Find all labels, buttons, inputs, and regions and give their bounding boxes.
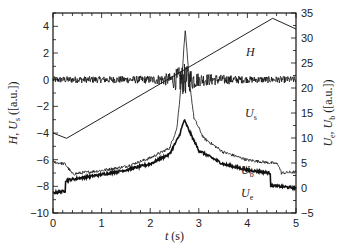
svg-text:0: 0 [301, 182, 307, 194]
svg-text:25: 25 [301, 57, 313, 69]
svg-text:3: 3 [196, 217, 202, 229]
svg-text:−10: −10 [30, 207, 49, 219]
label-Ub: Ub [241, 163, 254, 179]
svg-text:2: 2 [43, 47, 49, 59]
svg-text:4: 4 [43, 20, 49, 32]
svg-text:15: 15 [301, 107, 313, 119]
svg-text:1: 1 [99, 217, 105, 229]
svg-text:0: 0 [43, 74, 49, 86]
tick-labels: 012345420−2−4−6−8−1035302520151050−5 [30, 7, 313, 229]
svg-text:−5: −5 [301, 207, 314, 219]
svg-text:−4: −4 [36, 127, 49, 139]
axis-ticks [53, 13, 296, 213]
series-Ue-line [53, 120, 296, 194]
series-Ub-line [53, 31, 296, 175]
svg-text:10: 10 [301, 132, 313, 144]
svg-text:5: 5 [293, 217, 299, 229]
svg-text:5: 5 [301, 157, 307, 169]
svg-text:0: 0 [50, 217, 56, 229]
svg-text:35: 35 [301, 7, 313, 19]
svg-text:20: 20 [301, 82, 313, 94]
label-H: H [245, 45, 256, 59]
svg-text:30: 30 [301, 32, 313, 44]
series-lines [53, 18, 296, 193]
svg-text:−6: −6 [36, 154, 49, 166]
chart: 012345420−2−4−6−8−1035302520151050−5 t (… [0, 0, 341, 249]
label-Ue: Ue [241, 186, 254, 202]
svg-text:4: 4 [244, 217, 250, 229]
svg-text:−8: −8 [36, 180, 49, 192]
label-Us: Us [245, 106, 257, 122]
y-axis-right-title: Ue, Ub ([a.u.]) [321, 79, 337, 146]
plot-frame [53, 13, 296, 213]
x-axis-title: t (s) [165, 229, 184, 243]
y-axis-left-title: H, Us ([a.u.]) [6, 82, 22, 146]
svg-text:2: 2 [147, 217, 153, 229]
svg-text:−2: −2 [36, 100, 49, 112]
series-Us-line [53, 64, 296, 94]
